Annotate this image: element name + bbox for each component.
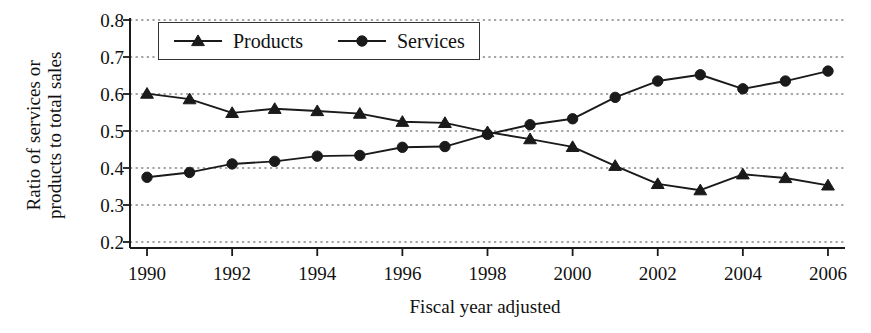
x-axis-tick-label: 2006 xyxy=(809,264,847,283)
x-axis-tick-label: 2002 xyxy=(639,264,677,283)
x-axis-tick-label: 1990 xyxy=(128,264,166,283)
x-axis-title: Fiscal year adjusted xyxy=(130,296,840,318)
line-chart: products to total sales Ratio of service… xyxy=(0,0,871,333)
x-axis-tick-label: 2004 xyxy=(724,264,762,283)
x-axis-tick-labels: 199019921994199619982000200220042006 xyxy=(0,0,871,333)
x-axis-tick-label: 1998 xyxy=(469,264,507,283)
x-axis-tick-label: 1994 xyxy=(298,264,336,283)
x-axis-tick-label: 1992 xyxy=(213,264,251,283)
x-axis-tick-label: 2000 xyxy=(554,264,592,283)
x-axis-tick-label: 1996 xyxy=(383,264,421,283)
